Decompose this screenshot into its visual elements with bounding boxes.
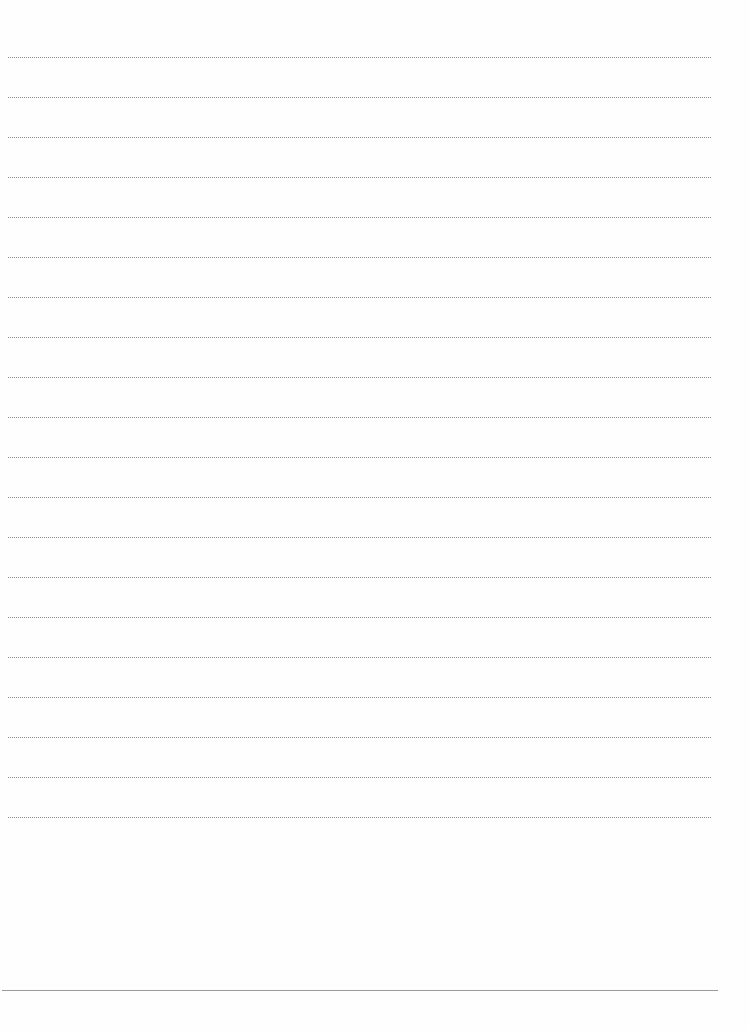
writing-line	[8, 817, 711, 818]
writing-line	[8, 137, 711, 138]
writing-line	[8, 577, 711, 578]
writing-line	[8, 497, 711, 498]
writing-line	[8, 377, 711, 378]
writing-line	[8, 417, 711, 418]
bottom-border-line	[2, 990, 718, 991]
writing-line	[8, 697, 711, 698]
writing-line	[8, 57, 711, 58]
writing-line	[8, 537, 711, 538]
writing-line	[8, 457, 711, 458]
writing-line	[8, 737, 711, 738]
writing-line	[8, 97, 711, 98]
writing-line	[8, 657, 711, 658]
writing-line	[8, 257, 711, 258]
writing-line	[8, 617, 711, 618]
lined-paper-page	[0, 0, 750, 1031]
writing-line	[8, 297, 711, 298]
writing-line	[8, 777, 711, 778]
writing-line	[8, 177, 711, 178]
writing-line	[8, 217, 711, 218]
writing-line	[8, 337, 711, 338]
